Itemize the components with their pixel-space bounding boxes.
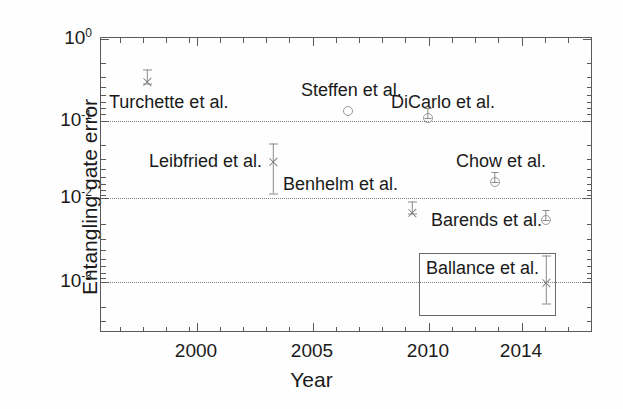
x-minor-tick xyxy=(289,327,290,332)
x-minor-tick xyxy=(166,327,167,332)
x-minor-tick-top xyxy=(166,38,167,43)
errorbar-chow xyxy=(494,172,495,182)
y-minor-tick xyxy=(101,63,106,64)
x-minor-tick xyxy=(545,327,546,332)
x-minor-tick xyxy=(266,327,267,332)
datapoint-turchette[interactable] xyxy=(142,77,153,88)
x-minor-tick-top xyxy=(382,38,383,43)
label-turchette: Turchette et al. xyxy=(109,92,228,113)
x-major-tick-2000 xyxy=(197,323,198,331)
y-minor-tick xyxy=(101,169,106,170)
y-minor-tick xyxy=(101,321,106,322)
y-major-tick-1e-2 xyxy=(101,198,109,199)
y-minor-tick xyxy=(101,239,106,240)
y-minor-tick-right xyxy=(587,266,592,267)
y-minor-tick-right xyxy=(587,250,592,251)
y-minor-tick xyxy=(101,102,106,103)
y-major-tick-right xyxy=(583,198,591,199)
x-minor-tick xyxy=(568,327,569,332)
x-major-tick-top xyxy=(313,38,314,46)
x-minor-tick xyxy=(336,327,337,332)
y-minor-tick-right xyxy=(587,321,592,322)
x-minor-tick xyxy=(120,327,121,332)
y-minor-tick xyxy=(101,224,106,225)
y-minor-tick xyxy=(101,159,106,160)
label-benhelm: Benhelm et al. xyxy=(283,174,398,195)
y-minor-tick xyxy=(101,145,106,146)
label-barends: Barends et al. xyxy=(431,210,542,231)
y-tick-label-1e-2: 10-2 xyxy=(40,186,92,208)
marker-x-icon xyxy=(541,278,552,289)
y-minor-tick-right xyxy=(587,307,592,308)
x-major-tick-top xyxy=(197,38,198,46)
x-minor-tick-top xyxy=(243,38,244,43)
y-minor-tick-right xyxy=(587,177,592,178)
errorbar-cap-bottom xyxy=(425,118,432,119)
y-minor-tick-right xyxy=(587,278,592,279)
datapoint-dicarlo[interactable] xyxy=(423,113,433,123)
x-minor-tick-top xyxy=(189,38,190,43)
errorbar-cap-bottom xyxy=(269,194,278,195)
marker-x-icon xyxy=(142,77,153,88)
y-minor-tick-right xyxy=(587,159,592,160)
x-minor-tick xyxy=(189,327,190,332)
x-minor-tick xyxy=(359,327,360,332)
x-minor-tick xyxy=(143,327,144,332)
x-minor-tick xyxy=(243,327,244,332)
y-tick-label-1e0: 100 xyxy=(40,27,92,49)
y-minor-tick xyxy=(101,108,106,109)
y-minor-tick xyxy=(101,77,106,78)
y-tick-label-1e-3: 10-3 xyxy=(40,270,92,292)
x-major-tick-2014 xyxy=(522,323,523,331)
y-minor-tick-right xyxy=(587,114,592,115)
label-ballance: Ballance et al. xyxy=(426,258,539,279)
x-major-tick-2010 xyxy=(429,323,430,331)
y-major-tick-1e-3 xyxy=(101,282,109,283)
y-minor-tick xyxy=(101,87,106,88)
y-minor-tick xyxy=(101,266,106,267)
datapoint-steffen[interactable] xyxy=(343,106,353,116)
figure-canvas: Entangling gate error 100 10-1 10-2 10-3… xyxy=(0,0,623,409)
y-minor-tick xyxy=(101,114,106,115)
marker-x-icon xyxy=(268,157,279,168)
y-minor-tick xyxy=(101,307,106,308)
x-minor-tick xyxy=(475,327,476,332)
x-minor-tick xyxy=(405,327,406,332)
y-minor-tick xyxy=(101,250,106,251)
y-minor-tick xyxy=(101,184,106,185)
datapoint-leibfried[interactable] xyxy=(268,157,279,168)
x-tick-label-2010: 2010 xyxy=(407,340,449,362)
x-minor-tick-top xyxy=(568,38,569,43)
y-minor-tick-right xyxy=(587,108,592,109)
x-minor-tick xyxy=(220,327,221,332)
x-tick-label-2000: 2000 xyxy=(175,340,217,362)
y-major-tick-right xyxy=(583,39,591,40)
x-tick-label-2005: 2005 xyxy=(291,340,333,362)
x-minor-tick-top xyxy=(545,38,546,43)
datapoint-barends[interactable] xyxy=(541,215,551,225)
label-leibfried: Leibfried et al. xyxy=(149,151,262,172)
y-minor-tick-right xyxy=(587,63,592,64)
y-major-tick-1e0 xyxy=(101,39,109,40)
y-minor-tick-right xyxy=(587,224,592,225)
x-minor-tick-top xyxy=(452,38,453,43)
errorbar-barends xyxy=(545,210,546,220)
x-minor-tick-top xyxy=(359,38,360,43)
y-tick-label-1e-1: 10-1 xyxy=(40,109,92,131)
plot-area: Turchette et al. Leibfried et al. Steffe… xyxy=(100,37,592,332)
label-steffen: Steffen et al. xyxy=(301,80,402,101)
datapoint-ballance[interactable] xyxy=(541,278,552,289)
label-dicarlo: DiCarlo et al. xyxy=(391,92,495,113)
y-major-tick-1e-1 xyxy=(101,121,109,122)
x-minor-tick xyxy=(452,327,453,332)
x-minor-tick-top xyxy=(266,38,267,43)
datapoint-benhelm[interactable] xyxy=(407,208,418,219)
errorbar-cap-top xyxy=(492,172,499,173)
y-minor-tick-right xyxy=(587,184,592,185)
x-major-tick-top xyxy=(429,38,430,46)
datapoint-chow[interactable] xyxy=(490,177,500,187)
x-minor-tick xyxy=(498,327,499,332)
y-minor-tick-right xyxy=(587,145,592,146)
y-minor-tick-right xyxy=(587,195,592,196)
errorbar-cap-top xyxy=(143,70,152,71)
